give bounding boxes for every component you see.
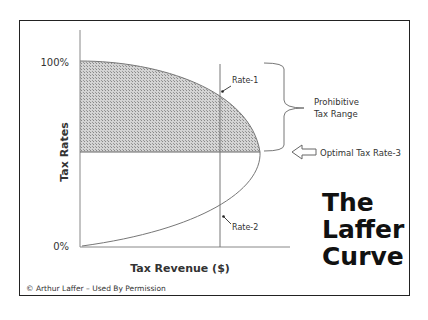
optimal-rate-label: Optimal Tax Rate-3	[320, 148, 401, 158]
prohibitive-label-line1: Prohibitive	[314, 97, 359, 107]
x-axis-label: Tax Revenue ($)	[130, 262, 230, 275]
rate1-pointer	[223, 86, 231, 91]
title-line-3: Curve	[322, 243, 404, 270]
prohibitive-label-line2: Tax Range	[313, 109, 358, 119]
rate2-label: Rate-2	[232, 223, 258, 232]
rate1-label: Rate-1	[232, 76, 258, 85]
rate2-pointer-head	[222, 215, 225, 218]
optimal-arrow-icon	[292, 145, 316, 159]
rate1-pointer-head	[221, 90, 224, 93]
y-tick-0: 0%	[53, 241, 69, 252]
title-line-2: Laffer	[322, 216, 404, 243]
title-line-1: The	[322, 189, 404, 216]
laffer-diagram: Rate-1 Rate-2 Prohibitive Tax Range Opti…	[0, 0, 428, 320]
credit-text: © Arthur Laffer – Used By Permission	[26, 284, 166, 293]
prohibitive-shaded-area	[80, 61, 260, 152]
rate2-pointer	[224, 217, 231, 224]
y-axis-label: Tax Rates	[58, 122, 71, 182]
diagram-title: The Laffer Curve	[322, 189, 404, 270]
prohibitive-brace	[264, 63, 304, 151]
y-tick-100: 100%	[40, 57, 69, 68]
